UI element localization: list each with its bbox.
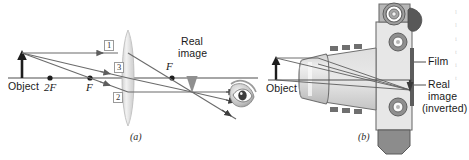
margin-frag-4: i <box>455 59 469 72</box>
two-f-label: 2F <box>44 81 56 93</box>
camera-bottom-ridges <box>330 107 362 114</box>
viewfinder-knob <box>383 3 405 25</box>
panel-a-caption: (a) <box>130 131 142 142</box>
ray-label-1: 1 <box>104 40 114 51</box>
real-image-arrow-inverted <box>186 76 197 93</box>
object-label-b: Object <box>266 83 297 95</box>
camera-mid-body <box>324 48 376 110</box>
ray-label-2: 2 <box>113 92 123 103</box>
ray-label-3: 3 <box>114 62 124 73</box>
f-label-near: F <box>86 81 93 93</box>
camera-base <box>378 130 410 154</box>
film-spool-upper <box>389 33 407 51</box>
margin-frag-3: t <box>455 46 469 59</box>
film-label: Film <box>428 56 448 68</box>
real-image-label-line2-b: image <box>428 91 457 103</box>
camera-top-ridges <box>330 44 362 51</box>
margin-text-fragment: l l i t i t <box>455 6 469 86</box>
margin-frag-5: t <box>455 72 469 85</box>
film-spool-lower <box>389 98 407 116</box>
real-image-label-line1-b: Real <box>428 79 450 91</box>
real-image-label-line2-a: image <box>178 48 207 60</box>
optics-figure: Object 2F F F Real image 1 3 2 (a) <box>0 0 469 160</box>
margin-frag-0: l <box>455 6 469 19</box>
real-image-label-line1-a: Real <box>181 36 203 48</box>
panel-a-lens-ray-diagram: Object 2F F F Real image 1 3 2 (a) <box>0 0 258 160</box>
real-image-label-line3-b: (inverted) <box>422 103 467 115</box>
camera-lens-barrel <box>299 54 329 104</box>
film-advance-lever <box>408 8 422 31</box>
observer-eye <box>230 81 256 107</box>
object-arrow-b <box>272 56 281 80</box>
margin-frag-1: l <box>455 19 469 32</box>
focal-point-2f-marker <box>47 75 52 80</box>
object-label-a: Object <box>8 81 39 93</box>
panel-b-camera-diagram: Object Film Real image (inverted) (b) <box>258 0 469 160</box>
panel-b-caption: (b) <box>358 131 370 142</box>
f-label-far: F <box>166 60 173 72</box>
margin-frag-2: i <box>455 33 469 46</box>
film-plane <box>410 48 414 106</box>
